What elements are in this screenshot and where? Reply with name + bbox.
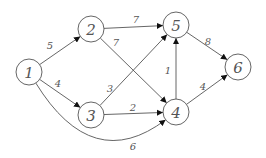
edge-weight-3-4: 2 bbox=[129, 102, 136, 113]
node-6: 6 bbox=[225, 54, 251, 80]
node-label: 6 bbox=[233, 59, 243, 77]
node-label: 2 bbox=[85, 21, 96, 39]
node-label: 4 bbox=[170, 104, 181, 122]
edge-3-to-4 bbox=[104, 112, 163, 114]
node-1: 1 bbox=[16, 59, 42, 85]
graph-svg: 5467732148 123456 bbox=[0, 0, 266, 158]
edge-weight-5-6: 8 bbox=[205, 36, 211, 47]
edge-weight-2-5: 7 bbox=[133, 14, 140, 25]
edge-4-to-6 bbox=[187, 75, 228, 105]
edge-weight-2-4: 7 bbox=[113, 37, 120, 48]
edge-2-to-5 bbox=[104, 26, 163, 29]
node-4: 4 bbox=[163, 99, 189, 125]
edge-weight-4-6: 4 bbox=[199, 81, 206, 92]
edge-1-to-2 bbox=[40, 36, 81, 64]
edge-weight-3-5: 3 bbox=[107, 83, 113, 94]
node-label: 3 bbox=[86, 107, 96, 125]
edges-layer bbox=[36, 26, 228, 141]
edge-3-to-5 bbox=[100, 34, 167, 105]
node-label: 5 bbox=[171, 17, 181, 35]
edge-weight-1-3: 4 bbox=[54, 78, 61, 89]
edge-weight-1-2: 5 bbox=[47, 40, 53, 51]
edge-labels-layer: 5467732148 bbox=[47, 14, 211, 152]
node-3: 3 bbox=[78, 102, 104, 128]
node-5: 5 bbox=[163, 12, 189, 38]
node-label: 1 bbox=[24, 64, 34, 82]
edge-weight-1-4: 6 bbox=[130, 141, 137, 152]
edge-weight-4-5: 1 bbox=[165, 65, 171, 76]
node-2: 2 bbox=[78, 16, 104, 42]
graph-diagram: 5467732148 123456 bbox=[0, 0, 266, 158]
